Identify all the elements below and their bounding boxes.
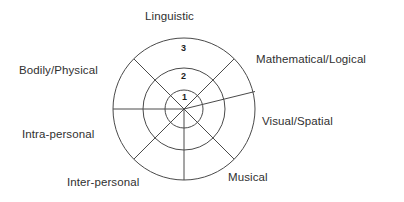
axis-label-visual-spatial: Visual/Spatial	[262, 115, 333, 128]
axis-label-intra-personal: Intra-personal	[22, 128, 94, 141]
spoke-mathematical-logical	[184, 59, 234, 109]
ring-label-3: 3	[181, 44, 186, 53]
axis-label-inter-personal: Inter-personal	[67, 176, 139, 189]
spoke-visual-spatial	[184, 92, 255, 110]
axis-label-musical: Musical	[228, 171, 268, 184]
ring-label-1: 1	[182, 93, 187, 102]
radar-grid-svg	[0, 0, 404, 202]
axis-label-mathematical-logical: Mathematical/Logical	[256, 53, 366, 66]
ring-label-2: 2	[181, 72, 186, 81]
axis-label-bodily-physical: Bodily/Physical	[19, 64, 98, 77]
spoke-bodily-physical	[134, 59, 184, 109]
spoke-inter-personal	[134, 109, 184, 159]
radar-chart: Linguistic Mathematical/Logical Visual/S…	[0, 0, 404, 202]
spoke-musical	[184, 109, 234, 159]
axis-label-linguistic: Linguistic	[145, 10, 194, 23]
